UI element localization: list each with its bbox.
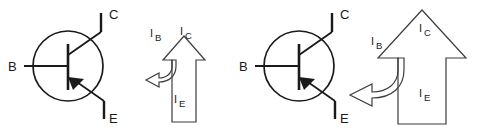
left-base-label: B (8, 59, 17, 74)
left-ic-subscript: C (185, 30, 192, 41)
transistor-current-flow-figure: C B E I B I C I E (0, 0, 477, 132)
right-base-label: B (239, 59, 248, 74)
left-ic-symbol: I (180, 25, 183, 37)
left-emitter-label: E (109, 111, 118, 126)
right-ic-subscript: C (424, 27, 431, 38)
right-emitter-label: E (340, 111, 349, 126)
right-ib-symbol: I (371, 35, 374, 47)
left-ie-subscript: E (179, 98, 185, 109)
right-ie-symbol: I (419, 87, 422, 99)
left-collector-label: C (109, 7, 118, 22)
left-ib-symbol: I (150, 27, 153, 39)
right-ib-subscript: B (376, 40, 382, 51)
left-ib-subscript: B (155, 32, 161, 43)
right-ic-symbol: I (419, 22, 422, 34)
right-ie-subscript: E (424, 92, 430, 103)
left-ie-symbol: I (174, 93, 177, 105)
right-collector-label: C (340, 7, 349, 22)
